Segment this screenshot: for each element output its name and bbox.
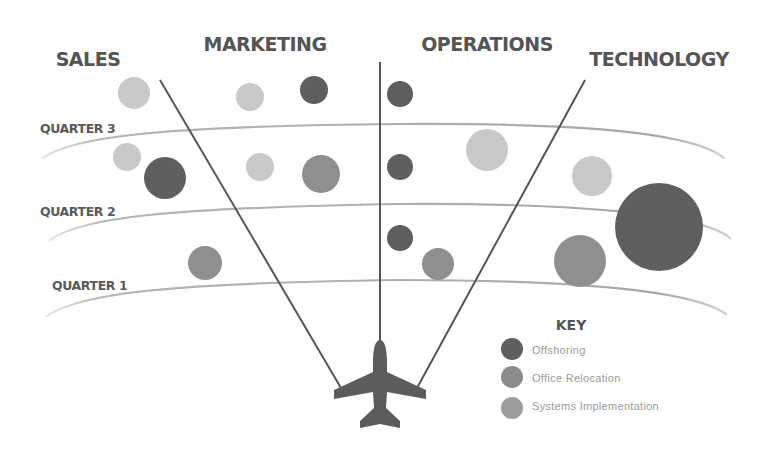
bubble: [572, 156, 612, 196]
bubble: [387, 154, 413, 180]
bubbles-group: [113, 76, 703, 287]
legend-label-systems-implementation: Systems Implementation: [532, 400, 659, 412]
legend-item-systems-implementation: Systems Implementation: [501, 397, 659, 419]
quarter-1-arc: [47, 280, 726, 316]
bubble: [188, 246, 222, 280]
legend-item-office-relocation: Office Relocation: [501, 366, 621, 388]
legend-label-office-relocation: Office Relocation: [532, 372, 621, 384]
legend-item-offshoring: Offshoring: [501, 338, 586, 360]
dept-label-technology: TECHNOLOGY: [589, 48, 729, 70]
divider-lines: [160, 62, 585, 388]
bubble: [387, 81, 413, 107]
bubble: [246, 153, 274, 181]
airplane-icon: [334, 340, 426, 428]
dept-label-sales: SALES: [56, 48, 121, 70]
quarter-label-3: QUARTER 3: [40, 121, 115, 136]
legend-swatch-systems-implementation: [501, 397, 523, 419]
bubble: [554, 235, 606, 287]
legend-swatch-office-relocation: [501, 366, 523, 388]
legend-label-offshoring: Offshoring: [532, 344, 586, 356]
bubble: [118, 77, 150, 109]
legend-swatch-offshoring: [501, 338, 523, 360]
bubble: [302, 155, 340, 193]
bubble: [113, 143, 141, 171]
dept-label-marketing: MARKETING: [204, 33, 327, 55]
bubble-chart: SALES MARKETING OPERATIONS TECHNOLOGY QU…: [0, 0, 763, 460]
bubble: [300, 76, 328, 104]
quarter-3-arc: [43, 124, 724, 158]
department-labels: SALES MARKETING OPERATIONS TECHNOLOGY: [56, 33, 730, 70]
bubble: [236, 83, 264, 111]
dept-label-operations: OPERATIONS: [421, 33, 553, 55]
legend: KEY Offshoring Office Relocation Systems…: [501, 317, 659, 419]
quarter-label-1: QUARTER 1: [52, 278, 127, 293]
bubble: [466, 129, 508, 171]
quarter-labels: QUARTER 3 QUARTER 2 QUARTER 1: [40, 121, 127, 293]
bubble: [387, 225, 413, 251]
quarter-label-2: QUARTER 2: [40, 204, 115, 219]
divider-line-right: [417, 80, 585, 388]
legend-title: KEY: [556, 317, 587, 333]
bubble: [422, 248, 454, 280]
bubble: [144, 157, 186, 199]
bubble: [615, 183, 703, 271]
